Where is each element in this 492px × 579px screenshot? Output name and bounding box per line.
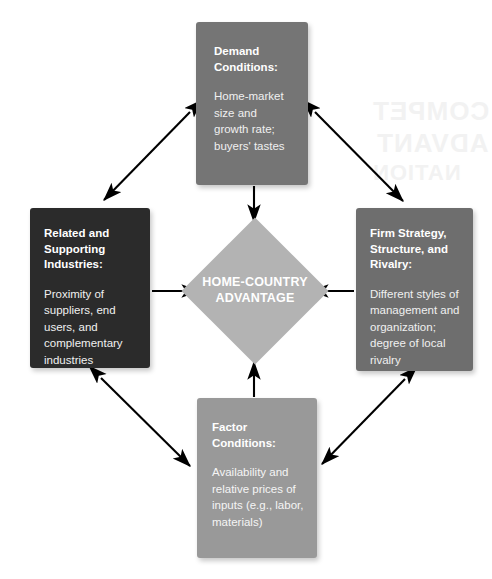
node-firm-title: Firm Strategy, Structure, and Rivalry:	[370, 226, 463, 273]
node-firm-body: Different styles of management and organ…	[370, 286, 463, 369]
node-demand-body: Home-market size and growth rate; buyers…	[214, 88, 292, 154]
node-factor-conditions[interactable]: Factor Conditions: Availability and rela…	[197, 398, 317, 558]
node-factor-title: Factor Conditions:	[212, 420, 305, 451]
node-related-title: Related and Supporting Industries:	[44, 226, 138, 273]
node-related-supporting-industries[interactable]: Related and Supporting Industries: Proxi…	[30, 208, 150, 368]
ghost-text-line-3: NATION	[372, 160, 461, 186]
node-firm-content: Firm Strategy, Structure, and Rivalry: D…	[356, 226, 473, 368]
node-related-body: Proximity of suppliers, end users, and c…	[44, 286, 138, 369]
node-factor-body: Availability and relative prices of inpu…	[212, 464, 305, 530]
diagram-canvas: COMPET ADVANT NATION Demand Conditions:	[0, 0, 492, 579]
connector-related-factor	[101, 378, 190, 466]
node-factor-content: Factor Conditions: Availability and rela…	[197, 420, 317, 530]
node-demand-content: Demand Conditions: Home-market size and …	[196, 44, 308, 154]
center-node-home-country-advantage[interactable]: HOME-COUNTRY ADVANTAGE	[182, 218, 328, 364]
node-related-content: Related and Supporting Industries: Proxi…	[30, 226, 150, 368]
node-firm-strategy-structure-rivalry[interactable]: Firm Strategy, Structure, and Rivalry: D…	[356, 208, 473, 371]
connector-firm-factor	[322, 379, 405, 464]
ghost-text-line-2: ADVANT	[376, 128, 488, 159]
center-node-label: HOME-COUNTRY ADVANTAGE	[182, 274, 328, 306]
connector-demand-related	[104, 112, 190, 200]
node-demand-conditions[interactable]: Demand Conditions: Home-market size and …	[196, 22, 308, 185]
ghost-text-line-1: COMPET	[372, 96, 489, 127]
connector-demand-firm	[315, 112, 403, 201]
node-demand-title: Demand Conditions:	[214, 44, 292, 75]
